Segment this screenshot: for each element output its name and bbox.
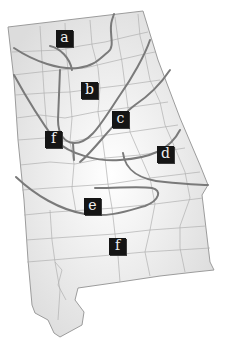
label-a: a [56,30,73,47]
label-e: e [84,198,101,215]
label-d: d [157,146,174,163]
label-b: b [81,82,98,99]
label-f-south: f [109,238,126,255]
alabama-map [0,0,226,348]
label-c: c [112,111,129,128]
label-f-north: f [45,131,62,148]
